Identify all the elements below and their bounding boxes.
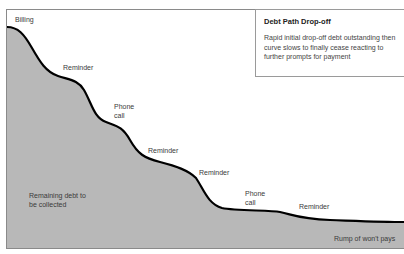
info-box: Debt Path Drop-off Rapid initial drop-of… — [255, 9, 404, 77]
stage-label-reminder-2: Reminder — [148, 146, 178, 155]
stage-label-phone-call-1: Phone call — [114, 102, 138, 120]
info-description: Rapid initial drop-off debt outstanding … — [264, 33, 396, 62]
stage-label-phone-call-2: Phone call — [245, 189, 269, 207]
stage-label-billing: Billing — [15, 15, 34, 24]
area-label: Remaining debt to be collected — [29, 191, 95, 209]
rump-label: Rump of won't pays — [334, 234, 395, 243]
stage-label-reminder-4: Reminder — [299, 202, 329, 211]
info-title: Debt Path Drop-off — [264, 17, 396, 26]
stage-label-reminder-1: Reminder — [63, 63, 93, 72]
stage-label-reminder-3: Reminder — [199, 168, 229, 177]
